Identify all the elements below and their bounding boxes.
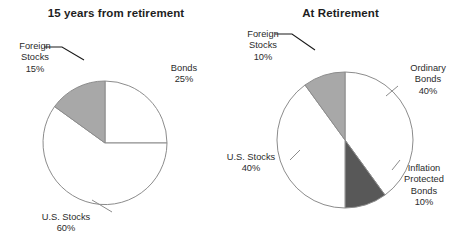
pie-label-foreign-stocks-2-line2: Stocks <box>249 40 277 50</box>
pie-label-inflation-protected-bonds: Inflation Protected Bonds 10% <box>392 163 456 209</box>
pie-label-foreign-stocks-2-line1: Foreign <box>247 29 279 39</box>
pie-label-us-stocks-2-line1: U.S. Stocks <box>227 152 276 162</box>
pie-label-ordinary-bonds-line1: Ordinary <box>410 63 446 73</box>
pie-chart-at-retirement <box>0 0 459 248</box>
pie-label-us-stocks-2: U.S. Stocks 40% <box>212 152 290 175</box>
pie-value-ordinary-bonds: 40% <box>398 86 458 97</box>
pie-label-ordinary-bonds-line2: Bonds <box>415 74 441 84</box>
pie-label-ordinary-bonds: Ordinary Bonds 40% <box>398 63 458 97</box>
pie-chart-figure: 15 years from retirement Foreign Stocks … <box>0 0 459 248</box>
pie-label-ipb-line3: Bonds <box>411 186 437 196</box>
pie-label-foreign-stocks-2: Foreign Stocks 10% <box>232 29 294 63</box>
pie-value-inflation-protected-bonds: 10% <box>392 197 456 208</box>
pie-label-ipb-line2: Protected <box>404 174 444 184</box>
pie-value-us-stocks-2: 40% <box>212 163 290 174</box>
pie-value-foreign-stocks-2: 10% <box>232 52 294 63</box>
pie-label-ipb-line1: Inflation <box>408 163 441 173</box>
